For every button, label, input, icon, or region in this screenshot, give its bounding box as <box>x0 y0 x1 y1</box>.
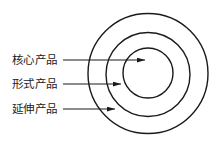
inner-circle-core-product <box>123 48 173 98</box>
label-core-product: 核心产品 <box>12 53 57 67</box>
label-formal-product: 形式产品 <box>12 77 57 91</box>
middle-circle-formal-product <box>106 33 190 117</box>
product-levels-diagram <box>0 0 216 144</box>
label-extended-product: 延伸产品 <box>12 102 57 116</box>
